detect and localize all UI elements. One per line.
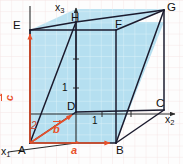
vertex-label-G: G [167,2,176,14]
vertex-label-E: E [13,20,21,32]
tick-label-x2-1: 1 [92,116,98,126]
geometry-figure: x3 x2 x1 A B C D E F G H 1 1 2 a b c [0,0,183,164]
vertex-label-B: B [116,145,124,157]
vector-c-overbar [1,94,2,101]
axis-label-x1: x1 [1,146,10,159]
figure-canvas [0,0,183,164]
vector-label-c: c [4,95,15,101]
vertex-label-A: A [18,145,26,157]
tick-label-x1-2: 2 [31,121,37,131]
vertex-label-H: H [71,12,79,24]
vector-label-b: b [53,124,60,135]
tick-label-x3-1: 1 [62,83,68,93]
vector-label-a: a [71,145,77,156]
vector-a-overbar [71,142,78,143]
axis-label-x3: x3 [55,2,64,15]
axis-label-x2: x2 [165,114,174,127]
vertex-label-D: D [67,101,75,113]
vector-b-overbar [53,121,61,122]
vertex-label-C: C [156,98,164,110]
vertex-label-F: F [115,19,122,31]
face-front-ABFD [30,30,116,143]
